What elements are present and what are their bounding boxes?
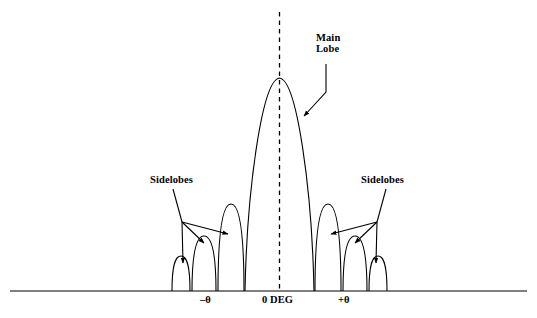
radiation-pattern-plot bbox=[0, 0, 537, 318]
leader-sidelobes-left-stem bbox=[173, 189, 182, 222]
lobe-sidelobe-right-1 bbox=[315, 204, 341, 291]
annotation-sidelobes-right: Sidelobes bbox=[361, 174, 404, 185]
annotation-main-lobe: Main Lobe bbox=[316, 32, 340, 54]
lobe-sidelobe-left-3 bbox=[172, 256, 190, 291]
leader-sidelobes-right-stem bbox=[377, 189, 386, 222]
lobe-sidelobe-right-3 bbox=[369, 256, 387, 291]
leader-sidelobes-left-to-lobe3 bbox=[182, 222, 183, 263]
leader-main-lobe bbox=[304, 64, 326, 116]
annotation-main-lobe-line2: Lobe bbox=[316, 43, 340, 54]
lobe-sidelobe-right-2 bbox=[343, 236, 367, 291]
axis-tick-label-negative-theta: –θ bbox=[200, 294, 211, 305]
radiation-pattern-figure: Main Lobe Sidelobes Sidelobes –θ 0 DEG +… bbox=[0, 0, 537, 318]
axis-tick-label-zero-deg: 0 DEG bbox=[262, 294, 293, 305]
lobe-sidelobe-left-1 bbox=[218, 204, 244, 291]
leader-sidelobes-right-to-lobe3 bbox=[376, 222, 377, 263]
annotation-main-lobe-line1: Main bbox=[316, 32, 340, 43]
lobe-sidelobe-left-2 bbox=[192, 236, 216, 291]
annotation-sidelobes-left: Sidelobes bbox=[150, 174, 193, 185]
axis-tick-label-positive-theta: +θ bbox=[338, 294, 350, 305]
